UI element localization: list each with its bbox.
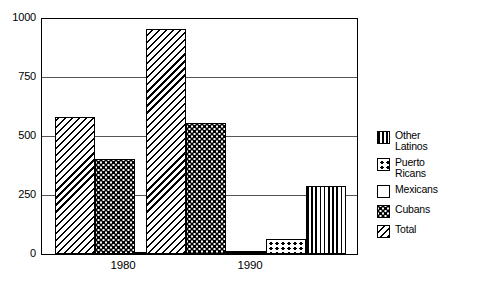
speckle-swatch-icon (377, 205, 390, 218)
legend-label-cubans: Cubans (395, 204, 430, 215)
y-tick-label-750: 750 (18, 71, 36, 82)
bar-chart-figure: 1000 750 500 250 0 1980 1990 (0, 0, 490, 295)
legend-label-total: Total (395, 224, 416, 235)
y-tick-label-1000: 1000 (12, 12, 36, 23)
bar-1990-mexicans (226, 251, 266, 254)
plot-area (41, 18, 358, 255)
x-tick-label-1980: 1980 (88, 259, 158, 272)
bar-1980-cubans (95, 159, 135, 254)
bar-1980-total (55, 117, 95, 254)
legend: Other Latinos Puerto Ricans Mexicans Cub… (377, 130, 489, 244)
bar-1990-puerto-ricans (266, 239, 306, 254)
legend-label-other-latinos: Other Latinos (395, 130, 427, 151)
sparse-dots-swatch-icon (377, 158, 390, 171)
legend-item-puerto-ricans: Puerto Ricans (377, 157, 489, 178)
bar-1990-total (146, 29, 186, 254)
vertical-stripes-swatch-icon (377, 131, 390, 144)
y-tick-label-250: 250 (18, 189, 36, 200)
legend-item-mexicans: Mexicans (377, 184, 489, 198)
bar-1990-cubans (186, 123, 226, 254)
y-tick-label-500: 500 (18, 130, 36, 141)
legend-item-other-latinos: Other Latinos (377, 130, 489, 151)
solid-black-swatch-icon (377, 185, 390, 198)
bars-layer (42, 19, 357, 254)
legend-item-total: Total (377, 224, 489, 238)
legend-item-cubans: Cubans (377, 204, 489, 218)
bar-1990-other-latinos (306, 186, 346, 254)
diagonal-hatch-swatch-icon (377, 225, 390, 238)
legend-label-puerto-ricans: Puerto Ricans (395, 157, 426, 178)
x-tick-label-1990: 1990 (215, 259, 285, 272)
y-axis: 1000 750 500 250 0 (0, 0, 36, 295)
legend-label-mexicans: Mexicans (395, 184, 438, 195)
y-tick-label-0: 0 (30, 248, 36, 259)
